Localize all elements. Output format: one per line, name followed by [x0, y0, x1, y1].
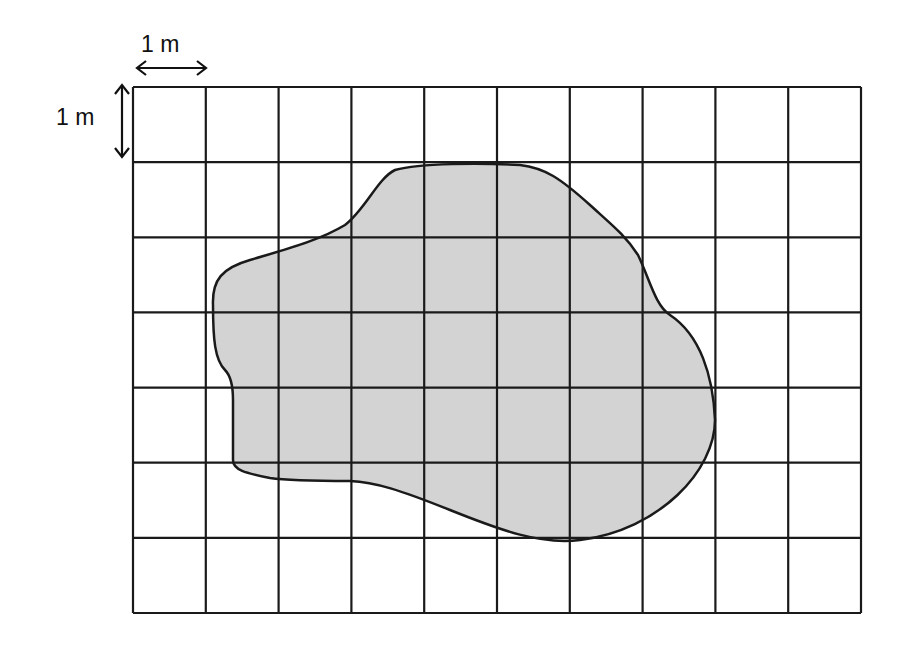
- diagram-canvas: [0, 0, 901, 656]
- irregular-shape: [213, 164, 715, 541]
- horizontal-scale-label: 1 m: [141, 33, 179, 56]
- grid-area-diagram: 1 m 1 m: [0, 0, 901, 656]
- vertical-scale-arrow-icon: [115, 85, 129, 157]
- vertical-scale-label: 1 m: [56, 106, 94, 129]
- horizontal-scale-arrow-icon: [137, 61, 206, 75]
